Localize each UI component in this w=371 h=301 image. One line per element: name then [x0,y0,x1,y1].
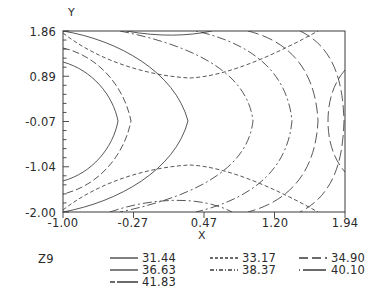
x-axis-title: X [198,229,206,242]
legend-swatch-solid [109,264,139,276]
y-tick-label: 1.86 [2,25,56,39]
x-tick-label: 0.47 [176,216,232,230]
y-tick-label: -0.07 [2,115,56,129]
legend: Z9 31.44 33.17 34.90 36.63 [36,248,366,294]
x-tick-label: 1.94 [317,216,371,230]
legend-swatch-dashed [298,252,328,264]
legend-value: 40.10 [331,263,365,277]
legend-title: Z9 [38,252,54,266]
x-tick-label: -0.27 [105,216,161,230]
legend-swatch-dotted [209,252,239,264]
legend-swatch-dashdot [209,264,239,276]
legend-swatch-longdash [109,276,139,288]
legend-swatch-solid [109,252,139,264]
legend-swatch-dotdash [298,264,328,276]
legend-value: 38.37 [242,263,276,277]
y-tick-label: -1.04 [2,160,56,174]
y-axis-title: Y [68,6,75,19]
x-tick-label: -1.00 [35,216,91,230]
contour-plot-figure: Y X 1.86 0.89 -0.07 -1.04 -2.00 -1.00 -0… [0,0,371,301]
y-tick-label: 0.89 [2,70,56,84]
x-tick-label: 1.20 [247,216,303,230]
legend-value: 41.83 [142,275,176,289]
